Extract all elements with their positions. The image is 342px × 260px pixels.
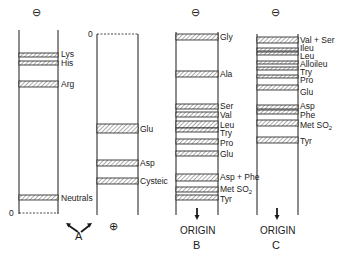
anode-symbol-a: ⊕ bbox=[109, 222, 118, 231]
label-ala: Ala bbox=[220, 70, 232, 79]
panel-letter-a: A bbox=[75, 232, 82, 241]
band-try bbox=[176, 128, 218, 132]
label-cysteic: Cysteic bbox=[140, 177, 168, 186]
label-neutrals: Neutrals bbox=[61, 194, 93, 203]
label-glu-a: Glu bbox=[140, 125, 153, 134]
band-ala bbox=[176, 71, 218, 77]
panel-letter-c: C bbox=[272, 241, 280, 250]
label-gly: Gly bbox=[220, 33, 233, 42]
band-leu bbox=[176, 121, 218, 128]
band-neutrals bbox=[19, 195, 58, 200]
band-alloileu bbox=[257, 61, 298, 64]
band-glu bbox=[257, 85, 298, 90]
label-pro-b: Pro bbox=[220, 139, 233, 148]
label-val-b: Val bbox=[220, 111, 232, 120]
panel-letter-b: B bbox=[193, 241, 200, 250]
strip-a-left bbox=[19, 30, 58, 214]
band-phe bbox=[257, 110, 298, 114]
band-try bbox=[257, 67, 298, 70]
band-val-ser bbox=[257, 37, 298, 43]
band-pro bbox=[176, 139, 218, 144]
origin-label-c: ORIGIN bbox=[260, 226, 296, 235]
zero-mark-a-left: 0 bbox=[9, 209, 14, 218]
band-tyr bbox=[257, 137, 298, 143]
strip-c bbox=[257, 34, 298, 220]
label-asp-phe: Asp + Phe bbox=[220, 173, 259, 182]
label-pro-c: Pro bbox=[300, 76, 313, 85]
band-glu bbox=[176, 151, 218, 156]
band-metso2 bbox=[176, 187, 218, 192]
label-tyr-c: Tyr bbox=[300, 137, 312, 146]
label-arg: Arg bbox=[61, 80, 74, 89]
band-asp bbox=[97, 160, 138, 166]
label-phe-c: Phe bbox=[300, 111, 315, 120]
diagram-canvas bbox=[0, 0, 342, 260]
label-metso2-c: Met SO2 bbox=[300, 121, 332, 133]
zero-mark-a-right: 0 bbox=[88, 30, 93, 39]
origin-label-b: ORIGIN bbox=[180, 226, 216, 235]
band-glu bbox=[97, 124, 138, 133]
label-try-b: Try bbox=[220, 129, 232, 138]
cathode-symbol-a: ⊖ bbox=[32, 8, 41, 17]
label-tyr-b: Tyr bbox=[220, 195, 232, 204]
strip-b bbox=[176, 32, 218, 220]
cathode-symbol-c: ⊖ bbox=[271, 8, 280, 17]
band-his bbox=[19, 61, 58, 65]
band-tyr bbox=[176, 195, 218, 200]
band-pro bbox=[257, 75, 298, 78]
label-his: His bbox=[61, 59, 73, 68]
strip-a-right bbox=[97, 34, 138, 215]
band-metso2 bbox=[257, 120, 298, 126]
band-leu bbox=[257, 52, 298, 55]
band-asp-phe bbox=[176, 174, 218, 181]
band-ser bbox=[176, 104, 218, 109]
band-ileu bbox=[257, 48, 298, 51]
label-glu-c: Glu bbox=[300, 88, 313, 97]
band-val bbox=[176, 112, 218, 117]
label-glu-b: Glu bbox=[220, 150, 233, 159]
cathode-symbol-b: ⊖ bbox=[191, 8, 200, 17]
band-arg bbox=[19, 81, 58, 87]
label-asp-a: Asp bbox=[140, 159, 155, 168]
band-lys bbox=[19, 53, 58, 57]
band-gly bbox=[176, 34, 218, 40]
band-asp bbox=[257, 105, 298, 109]
band-cysteic bbox=[97, 178, 138, 184]
